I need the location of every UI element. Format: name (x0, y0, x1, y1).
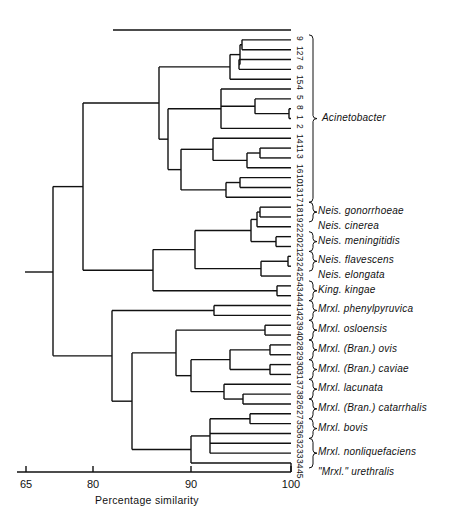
leaf-label: 8 (295, 105, 305, 110)
taxon-label: Acinetobacter (322, 112, 386, 123)
leaf-label: 29 (295, 351, 305, 360)
leaf-label: 24 (295, 262, 305, 271)
leaf-label: 7 (295, 56, 305, 61)
leaf-label: 3 (295, 154, 305, 159)
leaf-label: 15 (295, 75, 305, 84)
leaf-label: 45 (295, 469, 305, 478)
taxon-label: Mrxl. (Bran.) ovis (318, 343, 397, 354)
leaf-label: 2 (295, 124, 305, 129)
leaf-label: 28 (295, 341, 305, 350)
taxon-label: Mrxl. osloensis (318, 323, 387, 334)
leaf-label: 31 (295, 370, 305, 379)
tick-label-100: 100 (282, 478, 300, 490)
leaf-label: 44 (295, 292, 305, 301)
taxon-label: Neis. meningitidis (318, 235, 400, 246)
leaf-label: 22 (295, 223, 305, 232)
leaf-label: 20 (295, 233, 305, 242)
leaf-label: 39 (295, 321, 305, 330)
taxon-label: Mrxl. (Bran.) caviae (318, 363, 409, 374)
leaf-label: 42 (295, 311, 305, 320)
leaf-label: 4 (295, 85, 305, 90)
leaf-label: 13 (295, 183, 305, 192)
leaf-label: 11 (295, 144, 305, 153)
taxon-label: Mrxl. phenylpyruvica (318, 303, 413, 314)
leaf-label: 40 (295, 331, 305, 340)
taxon-label: Neis. cinerea (318, 220, 379, 231)
taxon-label: Neis. gonorrhoeae (318, 205, 404, 216)
leaf-label: 34 (295, 459, 305, 468)
leaf-label: 41 (295, 302, 305, 311)
leaf-label: 25 (295, 272, 305, 281)
group-braces (309, 35, 317, 468)
leaf-label: 23 (295, 252, 305, 261)
leaf-label: 16 (295, 164, 305, 173)
leaf-label: 6 (295, 65, 305, 70)
taxon-label: "Mrxl." urethralis (318, 466, 394, 477)
tick-label-80: 80 (87, 478, 99, 490)
leaf-label: 38 (295, 390, 305, 399)
leaf-label: 27 (295, 410, 305, 419)
taxon-label: Mrxl. (Bran.) catarrhalis (318, 402, 427, 413)
leaf-label: 37 (295, 380, 305, 389)
taxon-label: Mrxl. lacunata (318, 382, 383, 393)
leaf-label: 32 (295, 439, 305, 448)
leaf-label: 10 (295, 174, 305, 183)
leaf-label: 19 (295, 213, 305, 222)
leaf-label: 1 (295, 115, 305, 120)
leaf-label: 5 (295, 95, 305, 100)
leaf-label: 21 (295, 243, 305, 252)
leaf-label: 18 (295, 203, 305, 212)
taxon-label: King. kingae (318, 284, 375, 295)
leaf-label: 9 (295, 36, 305, 41)
tick-label-90: 90 (185, 478, 197, 490)
leaf-label: 12 (295, 46, 305, 55)
taxon-label: Neis. elongata (318, 269, 385, 280)
taxon-label: Neis. flavescens (318, 254, 394, 265)
taxon-label: Mrxl. bovis (318, 422, 368, 433)
dendrogram-branches (25, 30, 291, 463)
leaf-label: 14 (295, 134, 305, 143)
leaf-label: 30 (295, 361, 305, 370)
leaf-label: 17 (295, 193, 305, 202)
leaf-label: 35 (295, 420, 305, 429)
x-axis-title: Percentage similarity (95, 494, 199, 506)
leaf-label: 26 (295, 400, 305, 409)
taxon-label: Mrxl. nonliquefaciens (318, 446, 416, 457)
leaf-label: 36 (295, 429, 305, 438)
leaf-label: 43 (295, 282, 305, 291)
leaf-label: 33 (295, 449, 305, 458)
x-axis (17, 463, 291, 472)
tick-label-65: 65 (20, 478, 32, 490)
